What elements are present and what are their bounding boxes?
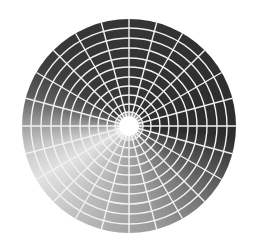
polar-grid-lines [0, 0, 254, 247]
polar-grid-figure [0, 0, 254, 247]
center-hole [119, 116, 139, 136]
